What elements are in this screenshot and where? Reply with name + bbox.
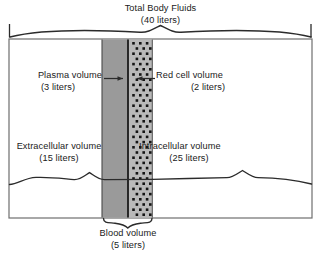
blood-volume-label: Blood volume (5 liters) (66, 228, 190, 251)
intracellular-volume-label: Intracellular volume (25 liters) (139, 141, 239, 164)
red-cell-fill (129, 40, 153, 218)
red-cell-volume-column (128, 40, 152, 218)
red-cell-label-line-1: Red cell volume (156, 70, 223, 80)
body-fluids-diagram: Total Body Fluids (40 liters) Plasma vol… (0, 0, 321, 257)
body-fluids-box (9, 39, 312, 218)
blood-label-line-2: (5 liters) (66, 240, 190, 252)
plasma-label-line-1: Plasma volume (38, 70, 102, 80)
extracellular-volume-label: Extracellular volume (15 liters) (12, 141, 106, 164)
blood-bracket-curve (104, 219, 153, 229)
total-body-fluids-bracket (10, 24, 312, 38)
intracellular-label-line-2: (25 liters) (139, 153, 239, 165)
box-outline (9, 39, 312, 218)
total-body-fluids-title: Total Body Fluids (40 liters) (0, 3, 321, 26)
plasma-label-line-2: (3 liters) (14, 82, 102, 94)
title-line-1: Total Body Fluids (125, 3, 197, 13)
plasma-volume-label: Plasma volume (3 liters) (14, 70, 102, 93)
diagram-canvas (0, 0, 321, 257)
blood-label-line-1: Blood volume (100, 228, 157, 238)
top-bracket-curve (10, 26, 311, 38)
red-cell-volume-label: Red cell volume (2 liters) (156, 70, 260, 93)
title-line-2: (40 liters) (0, 15, 321, 27)
intracellular-label-line-1: Intracellular volume (139, 141, 221, 151)
plasma-volume-column (102, 40, 128, 218)
blood-volume-bracket (104, 219, 153, 229)
plasma-fill (102, 40, 128, 218)
extracellular-label-line-1: Extracellular volume (17, 141, 102, 151)
red-cell-label-line-2: (2 liters) (156, 82, 260, 94)
extracellular-label-line-2: (15 liters) (12, 153, 106, 165)
